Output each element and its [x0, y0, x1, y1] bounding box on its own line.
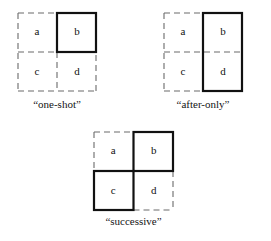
cell-b: b	[203, 12, 243, 52]
cell-c: c	[93, 171, 134, 211]
cell-d: d	[134, 171, 175, 211]
cell-label-a: a	[180, 26, 185, 37]
cell-b: b	[134, 131, 175, 171]
diagram-caption: “one-shot”	[17, 98, 97, 110]
diagram-caption: “after-only”	[163, 98, 243, 110]
cell-label-c: c	[180, 66, 185, 77]
cell-c: c	[17, 52, 57, 92]
cell-grid: a b c d	[93, 131, 174, 211]
cell-label-b: b	[151, 145, 157, 156]
cell-label-a: a	[111, 145, 116, 156]
cell-a: a	[163, 12, 203, 52]
diagram-one-shot: a b c d	[17, 12, 97, 92]
cell-d: d	[203, 52, 243, 92]
cell-a: a	[17, 12, 57, 52]
cell-d: d	[57, 52, 97, 92]
cell-label-d: d	[74, 66, 80, 77]
cell-label-b: b	[220, 26, 226, 37]
cell-label-d: d	[151, 185, 157, 196]
cell-b: b	[57, 12, 97, 52]
diagram-after-only: a b c d “after-only”	[163, 12, 243, 92]
figure-root: a b c d	[0, 0, 271, 241]
cell-grid: a b c d	[163, 12, 243, 92]
cell-label-d: d	[220, 66, 226, 77]
cell-label-a: a	[34, 26, 39, 37]
cell-label-c: c	[111, 185, 116, 196]
cell-a: a	[93, 131, 134, 171]
cell-c: c	[163, 52, 203, 92]
cell-label-c: c	[34, 66, 39, 77]
diagram-caption: “successive”	[93, 215, 174, 227]
cell-label-b: b	[74, 26, 80, 37]
diagram-successive: a b c d “successive”	[93, 131, 174, 211]
cell-grid: a b c d	[17, 12, 97, 92]
